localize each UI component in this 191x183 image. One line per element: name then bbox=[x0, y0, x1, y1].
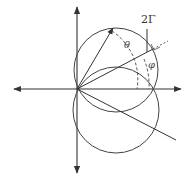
lower-ray-line bbox=[77, 89, 176, 140]
theta-label: θ bbox=[124, 39, 130, 50]
lower-circle bbox=[73, 67, 159, 153]
phi-label: φ bbox=[148, 59, 155, 70]
upper-circle bbox=[74, 28, 158, 112]
diagram: 2Γ θ φ bbox=[0, 0, 191, 183]
ray-dashed-extension bbox=[153, 41, 168, 49]
two-gamma-label: 2Γ bbox=[141, 13, 156, 26]
